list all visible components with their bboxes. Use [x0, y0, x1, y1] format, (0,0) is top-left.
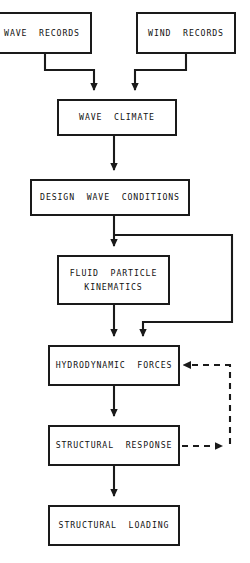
node-structural-response[interactable]: STRUCTURAL RESPONSE — [48, 425, 180, 466]
node-wave-records-label: WAVE RECORDS — [4, 27, 80, 40]
node-fluid-particle-kinematics-label-line1: FLUID PARTICLE — [70, 266, 157, 280]
node-fluid-particle-kinematics-label-line2: KINEMATICS — [84, 280, 142, 294]
edge-wind-records-to-wave-climate — [135, 54, 186, 90]
node-hydrodynamic-forces-label: HYDRODYNAMIC FORCES — [56, 359, 173, 372]
node-wave-records[interactable]: WAVE RECORDS — [0, 12, 92, 54]
node-structural-loading-label: STRUCTURAL LOADING — [59, 519, 170, 532]
edge-wave-records-to-wave-climate — [45, 54, 94, 90]
node-wind-records-label: WIND RECORDS — [148, 27, 224, 40]
node-structural-response-label: STRUCTURAL RESPONSE — [56, 439, 173, 452]
node-structural-loading[interactable]: STRUCTURAL LOADING — [48, 505, 180, 546]
node-wave-climate-label: WAVE CLIMATE — [79, 111, 155, 124]
node-hydrodynamic-forces[interactable]: HYDRODYNAMIC FORCES — [48, 345, 180, 386]
node-design-wave-conditions[interactable]: DESIGN WAVE CONDITIONS — [30, 179, 190, 216]
node-fluid-particle-kinematics[interactable]: FLUID PARTICLE KINEMATICS — [57, 255, 170, 305]
node-design-wave-conditions-label: DESIGN WAVE CONDITIONS — [40, 191, 180, 204]
node-wind-records[interactable]: WIND RECORDS — [136, 12, 236, 54]
flowchart-diagram: WAVE RECORDS WIND RECORDS WAVE CLIMATE D… — [0, 0, 250, 563]
node-wave-climate[interactable]: WAVE CLIMATE — [57, 99, 177, 136]
